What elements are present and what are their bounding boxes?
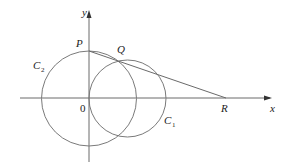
- x-axis-arrow-icon: [264, 96, 272, 101]
- x-axis-label: x: [269, 102, 275, 114]
- point-r-label: R: [220, 102, 228, 114]
- circle-c2-subscript: 2: [41, 66, 45, 74]
- circle-c2-label: C: [33, 59, 41, 71]
- y-axis-arrow-icon: [87, 10, 92, 18]
- circle-c1-subscript: 1: [172, 121, 176, 129]
- circle-c1-label: C: [164, 114, 172, 126]
- y-axis-label: y: [81, 6, 87, 18]
- geometry-diagram: y x 0 P Q R C 2 C 1: [0, 0, 286, 167]
- line-pr: [89, 51, 226, 98]
- point-p-label: P: [75, 37, 83, 49]
- point-q-label: Q: [117, 43, 125, 55]
- origin-label: 0: [80, 102, 86, 114]
